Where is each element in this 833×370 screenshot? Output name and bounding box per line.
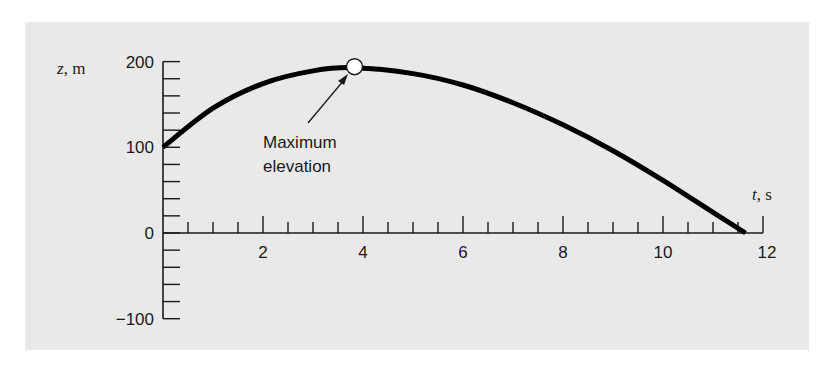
y-tick-label: −100: [116, 310, 154, 329]
data-curve: [163, 59, 746, 233]
axis-ticks: [163, 62, 763, 319]
x-axis-label: t, s: [752, 185, 772, 204]
axes: [163, 62, 763, 319]
y-tick-label: 200: [126, 53, 154, 72]
chart-svg: −100010020024681012 z, m t, s Maximum el…: [0, 0, 833, 370]
y-axis-unit: , m: [64, 59, 86, 78]
x-tick-label: 10: [654, 243, 673, 262]
annotation-line2: elevation: [263, 157, 331, 176]
elevation-curve: [163, 68, 746, 233]
x-tick-label: 6: [458, 243, 467, 262]
x-tick-label: 12: [758, 243, 777, 262]
annotation-line1: Maximum: [263, 133, 337, 152]
arrow-head-icon: [338, 74, 348, 85]
annotation-arrow-line: [308, 80, 344, 123]
max-elevation-marker-icon: [347, 59, 363, 75]
x-tick-label: 2: [258, 243, 267, 262]
x-tick-label: 8: [558, 243, 567, 262]
y-tick-label: 100: [126, 138, 154, 157]
y-tick-label: 0: [145, 224, 154, 243]
y-axis-label: z, m: [56, 59, 85, 78]
x-tick-label: 4: [358, 243, 367, 262]
x-axis-unit: , s: [757, 185, 772, 204]
